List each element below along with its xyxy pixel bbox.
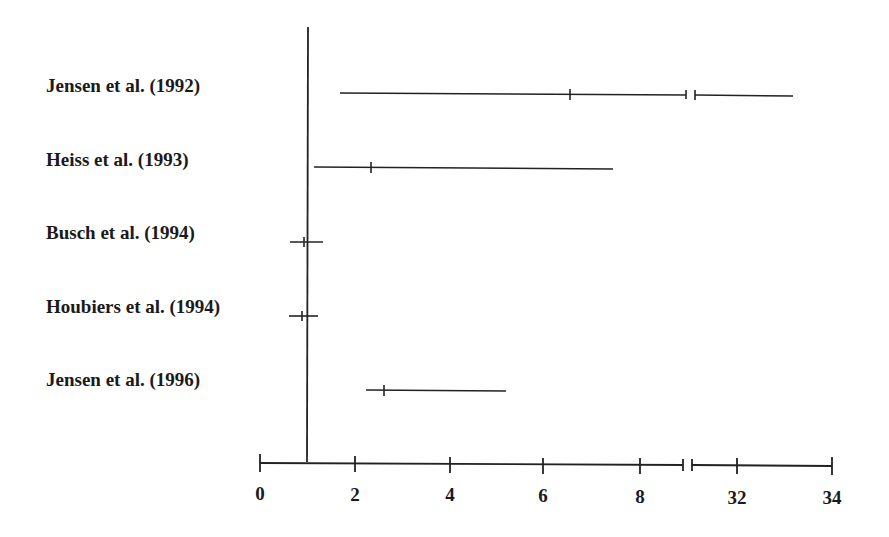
- tick-label: 34: [823, 487, 843, 508]
- ci-row-busch-1994: [290, 237, 323, 247]
- tick-label: 2: [350, 484, 360, 505]
- study-label: Heiss et al. (1993): [46, 149, 188, 171]
- forest-plot: Jensen et al. (1992) Heiss et al. (1993)…: [0, 0, 889, 537]
- study-label: Jensen et al. (1992): [46, 75, 200, 97]
- ci-row-jensen-1996: [366, 385, 506, 396]
- reference-line: [307, 27, 308, 462]
- tick-label: 32: [728, 487, 747, 508]
- study-label: Jensen et al. (1996): [46, 369, 200, 391]
- study-label: Busch et al. (1994): [46, 222, 195, 244]
- ci-row-jensen-1992: [340, 89, 793, 100]
- ci-row-heiss-1993: [314, 162, 613, 173]
- x-axis: [260, 454, 832, 475]
- tick-label: 4: [445, 484, 455, 505]
- ci-row-houbiers-1994: [289, 311, 318, 321]
- tick-label: 8: [635, 486, 645, 507]
- tick-label: 6: [538, 485, 548, 506]
- study-label: Houbiers et al. (1994): [46, 296, 220, 318]
- tick-label: 0: [255, 483, 265, 504]
